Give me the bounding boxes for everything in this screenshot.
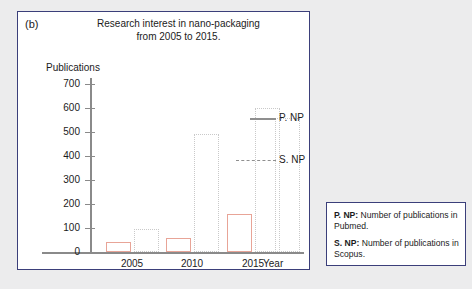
plot-area: 7006005004003002001000 200520102015 Year… [18, 12, 311, 271]
y-tick-mark [85, 180, 95, 181]
bar [275, 118, 300, 252]
p-np-annotation: P. NP [279, 112, 304, 123]
chart-panel: (b) Research interest in nano-packagingf… [17, 11, 310, 270]
y-tick-label: 0 [46, 246, 80, 257]
y-tick-mark [85, 228, 95, 229]
legend-key-scopus: S. NP: [334, 238, 359, 248]
y-tick-mark [85, 84, 95, 85]
y-tick-label: 400 [46, 150, 80, 161]
y-tick-mark [85, 108, 95, 109]
x-tick-label: 2005 [110, 258, 154, 269]
y-tick-label: 600 [46, 102, 80, 113]
bar [134, 229, 159, 252]
y-tick-mark [85, 132, 95, 133]
y-axis-line [90, 78, 92, 253]
bar [106, 242, 131, 252]
y-tick-label: 100 [46, 222, 80, 233]
y-tick-mark [85, 252, 95, 253]
x-axis-line [42, 252, 304, 254]
y-tick-label: 500 [46, 126, 80, 137]
legend-entry-scopus: S. NP: Number of publications in Scopus. [334, 238, 459, 259]
legend-entry-pubmed: P. NP: Number of publications in Pubmed. [334, 210, 459, 231]
legend-box: P. NP: Number of publications in Pubmed.… [326, 202, 466, 266]
y-tick-mark [85, 156, 95, 157]
bar [194, 134, 219, 252]
legend-key-pubmed: P. NP: [334, 210, 358, 220]
s-np-leader-line [236, 160, 276, 161]
bar [166, 238, 191, 252]
s-np-annotation: S. NP [279, 154, 305, 165]
y-tick-label: 700 [46, 78, 80, 89]
p-np-leader-line [250, 118, 276, 120]
x-axis-title: Year [263, 258, 283, 269]
x-tick-label: 2010 [170, 258, 214, 269]
bar [227, 214, 252, 252]
y-tick-label: 300 [46, 174, 80, 185]
y-tick-mark [85, 204, 95, 205]
y-tick-label: 200 [46, 198, 80, 209]
